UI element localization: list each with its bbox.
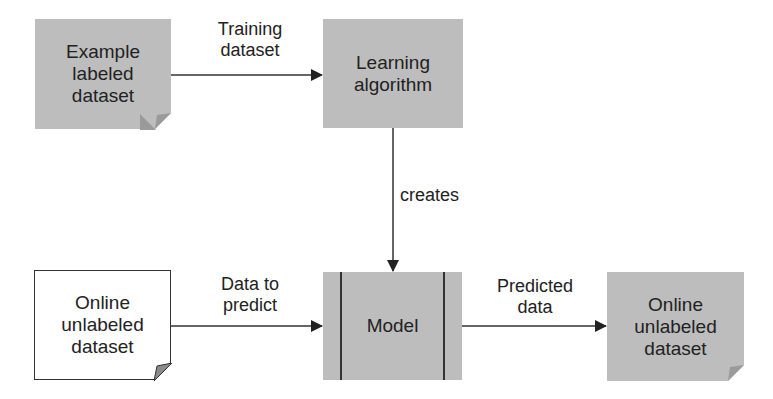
edge-label-training-dataset: Training dataset: [200, 19, 300, 61]
model-right-bar: [443, 272, 445, 380]
label-line: dataset: [200, 40, 300, 61]
label-line: data: [485, 297, 585, 318]
label-line: Online: [634, 294, 716, 316]
node-label: Example labeled dataset: [66, 41, 140, 107]
edge-label-predicted-data: Predicted data: [485, 276, 585, 318]
label-line: Online: [61, 292, 143, 314]
label-line: Data to: [200, 274, 300, 295]
label-line: creates: [400, 185, 474, 206]
node-model: Model: [323, 272, 462, 380]
node-label: Online unlabeled dataset: [634, 294, 716, 360]
node-example-labeled-dataset: Example labeled dataset: [35, 19, 171, 129]
label-line: dataset: [61, 336, 143, 358]
folded-corner-icon: [728, 365, 744, 381]
node-label: Online unlabeled dataset: [61, 292, 143, 358]
folded-corner-icon: [155, 113, 171, 129]
model-left-bar: [340, 272, 342, 380]
edge-label-data-to-predict: Data to predict: [200, 274, 300, 316]
label-line: unlabeled: [634, 316, 716, 338]
label-line: dataset: [634, 338, 716, 360]
node-label: Model: [367, 315, 419, 337]
label-line: Training: [200, 19, 300, 40]
label-line: unlabeled: [61, 314, 143, 336]
label-line: Learning: [354, 52, 432, 74]
label-line: predict: [200, 295, 300, 316]
folded-corner-icon: [140, 114, 156, 130]
label-line: Predicted: [485, 276, 585, 297]
node-learning-algorithm: Learning algorithm: [323, 19, 463, 128]
node-label: Learning algorithm: [354, 52, 432, 96]
label-line: algorithm: [354, 74, 432, 96]
label-line: Example: [66, 41, 140, 63]
label-line: dataset: [66, 85, 140, 107]
edge-label-creates: creates: [400, 185, 474, 206]
folded-corner-icon: [154, 363, 172, 381]
node-online-unlabeled-dataset-output: Online unlabeled dataset: [607, 272, 744, 381]
node-online-unlabeled-dataset-input: Online unlabeled dataset: [34, 270, 171, 380]
label-line: labeled: [66, 63, 140, 85]
